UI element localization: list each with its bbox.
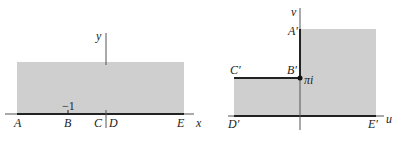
y-axis-label: y <box>95 29 102 43</box>
point-label-e: E <box>176 116 185 130</box>
point-pi-i <box>298 76 303 81</box>
pi-i-label: πi <box>304 73 313 87</box>
left-panel: y x −1 A B C D E <box>5 29 202 130</box>
point-label-b: B <box>64 116 72 130</box>
right-panel: v u A′ B′ C′ D′ E′ πi <box>227 5 392 131</box>
point-label-e-prime: E′ <box>367 117 378 131</box>
point-label-c: C <box>94 116 103 130</box>
point-label-a: A <box>13 116 22 130</box>
point-label-b-prime: B′ <box>287 63 297 77</box>
point-label-d-prime: D′ <box>227 117 240 131</box>
x-axis-label: x <box>195 116 202 130</box>
point-label-c-prime: C′ <box>230 63 241 77</box>
shaded-strip <box>17 62 184 114</box>
point-label-d: D <box>108 116 118 130</box>
conformal-map-diagram: y x −1 A B C D E v u A′ B′ C′ D′ E′ πi <box>0 0 396 141</box>
tick-label: −1 <box>62 99 75 113</box>
u-axis-label: u <box>386 112 392 126</box>
v-axis-label: v <box>291 5 297 19</box>
point-label-a-prime: A′ <box>287 24 298 38</box>
